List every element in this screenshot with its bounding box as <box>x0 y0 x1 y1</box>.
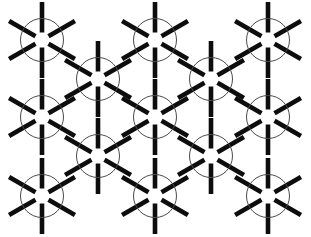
lattice-figure <box>0 0 311 237</box>
figure-background <box>0 0 311 237</box>
lattice-canvas <box>0 0 311 237</box>
